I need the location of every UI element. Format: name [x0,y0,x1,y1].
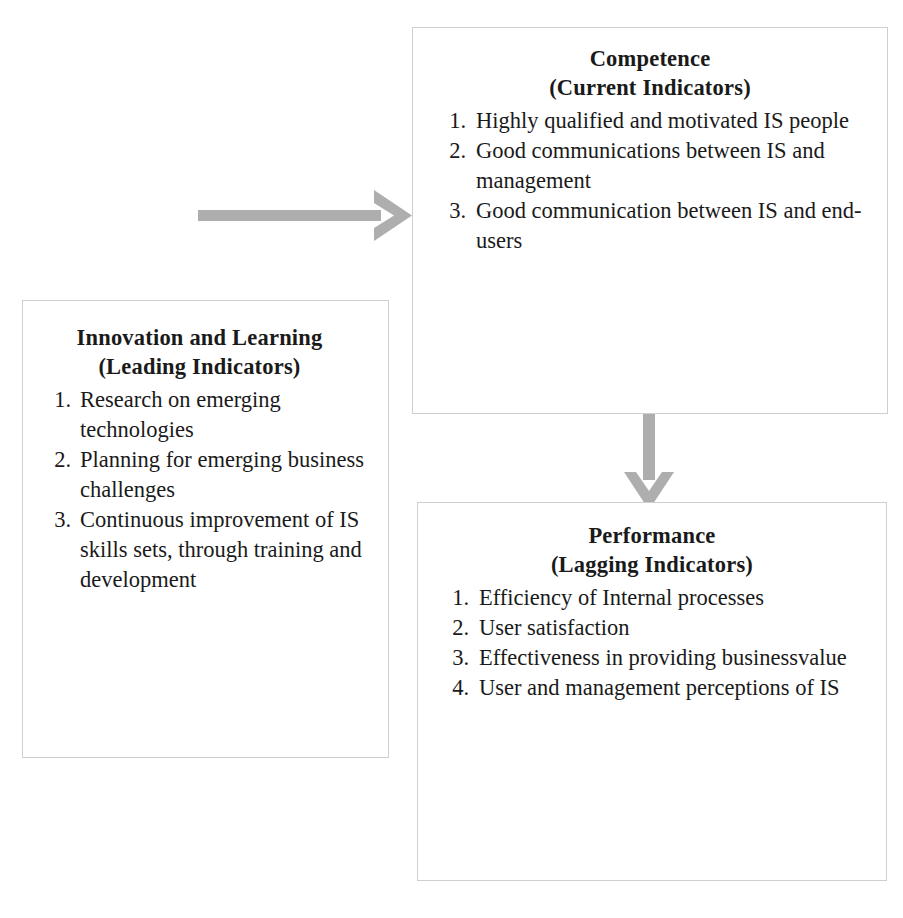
list-item: 2. Planning for emerging business challe… [49,445,378,505]
box-innovation-and-learning: Innovation and Learning (Leading Indicat… [22,300,389,758]
diagram-canvas: Competence (Current Indicators) 1. Highl… [0,0,903,918]
innovation-heading-line2: (Leading Indicators) [23,352,376,381]
innovation-heading-line1: Innovation and Learning [23,323,376,352]
list-item-label: Good communication between IS and end-us… [476,196,869,256]
arrow-right-icon [198,186,414,246]
list-item: 2. Good communications between IS and ma… [444,136,875,196]
list-item: 4. User and management perceptions of IS [447,673,876,703]
list-item: 2. User satisfaction [447,613,876,643]
list-item-label: Good communications between IS and manag… [476,136,869,196]
list-item-label: Continuous improvement of IS skills sets… [80,505,372,595]
list-item-number: 2. [49,445,71,475]
list-item-label: Effectiveness in providing businessvalue [479,643,870,673]
list-item: 1. Research on emerging technologies [49,385,378,445]
list-item: 3. Continuous improvement of IS skills s… [49,505,378,595]
list-item: 1. Efficiency of Internal processes [447,583,876,613]
box-competence: Competence (Current Indicators) 1. Highl… [412,27,888,414]
list-item-number: 2. [447,613,469,643]
list-item-label: Planning for emerging business challenge… [80,445,372,505]
competence-heading-line1: Competence [413,44,887,73]
innovation-heading: Innovation and Learning (Leading Indicat… [23,323,388,381]
list-item-number: 1. [444,106,466,136]
list-item-number: 4. [447,673,469,703]
competence-heading-line2: (Current Indicators) [413,73,887,102]
competence-heading: Competence (Current Indicators) [413,44,887,102]
arrow-down-icon [612,412,688,512]
innovation-indicator-list: 1. Research on emerging technologies 2. … [49,385,378,595]
list-item-number: 2. [444,136,466,166]
list-item-label: User satisfaction [479,613,870,643]
list-item-number: 1. [49,385,71,415]
performance-heading-line1: Performance [418,521,886,550]
list-item-label: Research on emerging technologies [80,385,372,445]
list-item-number: 3. [447,643,469,673]
box-performance: Performance (Lagging Indicators) 1. Effi… [417,502,887,881]
list-item-number: 1. [447,583,469,613]
list-item-number: 3. [49,505,71,535]
list-item: 3. Effectiveness in providing businessva… [447,643,876,673]
performance-heading-line2: (Lagging Indicators) [418,550,886,579]
list-item-label: Efficiency of Internal processes [479,583,870,613]
competence-indicator-list: 1. Highly qualified and motivated IS peo… [444,106,875,256]
list-item-label: Highly qualified and motivated IS people [476,106,869,136]
performance-indicator-list: 1. Efficiency of Internal processes 2. U… [447,583,876,703]
list-item: 1. Highly qualified and motivated IS peo… [444,106,875,136]
list-item: 3. Good communication between IS and end… [444,196,875,256]
list-item-number: 3. [444,196,466,226]
list-item-label: User and management perceptions of IS [479,673,870,703]
performance-heading: Performance (Lagging Indicators) [418,521,886,579]
